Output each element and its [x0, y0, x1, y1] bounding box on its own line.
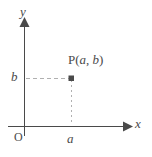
point-close-paren: ) [99, 52, 103, 67]
x-axis-arrowhead [123, 122, 133, 132]
y-axis-label: y [20, 5, 26, 18]
origin-label: O [14, 131, 23, 143]
x-axis-label: x [135, 117, 141, 130]
cartesian-plane-figure: y x O a b P(a, b) [0, 0, 152, 157]
y-coordinate-tick-label: b [11, 70, 18, 83]
point-label-p: P(a, b) [68, 53, 103, 66]
point-marker-p [69, 76, 75, 82]
x-coordinate-tick-label: a [67, 132, 74, 145]
